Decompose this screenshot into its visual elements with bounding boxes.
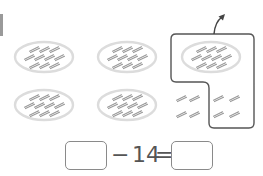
bundle-row1-col1	[15, 42, 73, 72]
loose-sticks-inside	[214, 96, 240, 118]
answer-box-minuend[interactable]	[65, 141, 107, 170]
minus-sign: −	[111, 140, 129, 170]
bundle-row2-col2	[98, 90, 156, 120]
curved-up-arrow-icon	[214, 14, 225, 34]
counting-sticks-figure: − 14 =	[0, 0, 263, 176]
bundle-row1-col2	[98, 42, 156, 72]
loose-sticks-outside	[177, 96, 200, 118]
left-edge-bracket	[0, 14, 3, 36]
bundle-row1-col3-circled	[182, 42, 240, 72]
answer-box-difference[interactable]	[171, 141, 213, 170]
bundle-row2-col1	[15, 90, 73, 120]
